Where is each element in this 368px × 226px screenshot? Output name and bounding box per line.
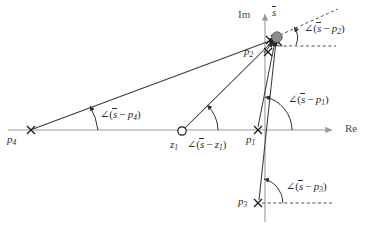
angle-label-s-p2: ∠(s − p2) — [304, 23, 345, 35]
angle-label-s-p3: ∠(s − p3) — [286, 181, 327, 193]
angle-label-s-p1: ∠(s − p1) — [288, 94, 329, 106]
figure-canvas: Im Re s p2 p1 p3 p4 z1 ∠(s − p2) ∠(s − p… — [0, 0, 368, 226]
vector-p4-to-s — [33, 39, 275, 129]
point-label-p4: p4 — [7, 134, 16, 146]
point-label-s-bar: s — [272, 7, 276, 18]
point-label-z1: z1 — [170, 139, 178, 151]
real-axis-label: Re — [345, 123, 357, 134]
angle-label-s-z1: ∠(s − z1) — [187, 139, 226, 151]
arc-angle-s-p4 — [90, 106, 98, 130]
arc-angle-s-p3 — [264, 179, 283, 203]
vector-p3-to-s — [259, 41, 276, 200]
marker-s-bar — [272, 32, 282, 42]
axes-group — [8, 14, 332, 222]
angle-label-s-p4: ∠(s − p4) — [100, 109, 141, 121]
point-label-p1: p1 — [246, 134, 255, 146]
point-label-p2: p2 — [244, 46, 253, 58]
marker-p3 — [254, 199, 262, 207]
marker-z1 — [178, 127, 186, 135]
arc-angle-s-p2 — [294, 27, 298, 45]
arc-angle-s-z1 — [207, 105, 218, 130]
vectors-group — [33, 39, 276, 200]
point-label-p3: p3 — [238, 196, 247, 208]
imaginary-axis-label: Im — [238, 9, 250, 20]
